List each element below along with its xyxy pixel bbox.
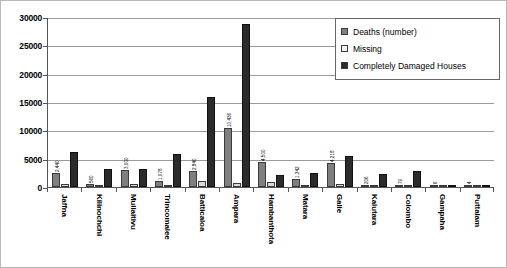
y-axis-tick-label: 0 [0,183,42,193]
bar[interactable] [448,185,456,187]
bar[interactable] [267,182,275,187]
x-axis-category-label: Trincomalee [163,194,172,240]
legend-label: Deaths (number) [353,27,417,37]
y-axis-tick-mark [43,46,47,47]
bar-value-label: 4,218 [329,151,334,163]
bar[interactable]: 4 [464,185,472,187]
bar-group: 4,500 [254,18,288,187]
x-axis-category-label: Kalutara [369,194,378,225]
bar-group: 10,436 [220,18,254,187]
x-axis-labels: JaffnaKilinochchiMullaitivuTrincomaleeBa… [47,194,494,266]
bar[interactable]: 79 [395,185,403,187]
x-axis-label-cell: Gampaha [425,194,459,266]
x-axis-category-label: Jaffna [60,194,69,217]
bar[interactable] [233,183,241,187]
x-axis-category-label: Mullaitivu [128,194,137,230]
x-axis-category-label: Hambanthota [266,194,275,244]
y-axis-tick-mark [43,160,47,161]
bar[interactable] [70,152,78,187]
bar[interactable] [276,175,284,187]
bar[interactable] [207,97,215,187]
x-axis-category-label: Kilinochchi [94,194,103,236]
bar-value-label: 1,078 [158,168,163,180]
x-axis-category-label: Ampara [232,194,241,223]
bar[interactable] [482,185,490,187]
y-axis-tick-label: 15000 [0,98,42,108]
bar[interactable]: 3,000 [121,170,129,187]
legend-item-deaths[interactable]: Deaths (number) [341,23,494,40]
y-axis-tick-mark [43,131,47,132]
bar[interactable]: 1,342 [292,179,300,187]
bar[interactable]: 4,218 [327,163,335,187]
x-axis-category-label: Colombo [404,194,413,228]
x-axis-category-label: Batticaloa [197,194,206,231]
bar[interactable]: 4,500 [258,162,266,188]
bar[interactable] [310,173,318,187]
bar-chart: 2,4405603,0001,0782,84010,4364,5001,3424… [0,0,507,268]
bar[interactable] [379,174,387,187]
x-axis-label-cell: Galle [322,194,356,266]
x-axis-category-label: Gampaha [438,194,447,230]
y-axis-tick-label: 30000 [0,13,42,23]
legend-swatch-icon [341,45,348,52]
x-axis-label-cell: Matara [288,194,322,266]
legend-item-missing[interactable]: Missing [341,40,494,57]
bar[interactable]: 6 [430,185,438,187]
y-axis-tick-label: 25000 [0,41,42,51]
bar-group: 1,078 [151,18,185,187]
bar[interactable]: 560 [86,184,94,187]
bar-value-label: 10,436 [226,113,231,127]
chart-legend: Deaths (number) Missing Completely Damag… [335,18,500,80]
x-axis-category-label: Puttalam [472,194,481,227]
x-axis-label-cell: Kalutara [357,194,391,266]
bar[interactable] [104,169,112,187]
x-axis-label-cell: Ampara [219,194,253,266]
bar-value-label: 1,342 [295,167,300,179]
bar-value-label: 6 [432,181,437,184]
bar-value-label: 206 [363,176,368,184]
bar[interactable] [164,185,172,187]
bar[interactable] [370,185,378,187]
bar[interactable] [173,154,181,187]
bar-group: 3,000 [117,18,151,187]
bar[interactable] [301,185,309,187]
y-axis-tick-mark [43,103,47,104]
bar[interactable] [404,185,412,187]
x-axis-label-cell: Kilinochchi [81,194,115,266]
bar[interactable] [345,156,353,187]
bar[interactable] [198,181,206,187]
bar[interactable] [242,24,250,187]
bar[interactable]: 2,440 [52,173,60,187]
bar-value-label: 560 [89,175,94,183]
bar[interactable] [139,169,147,187]
x-axis-category-label: Galle [335,194,344,213]
bar[interactable] [95,185,103,187]
legend-item-damaged-houses[interactable]: Completely Damaged Houses [341,57,494,74]
legend-swatch-icon [341,62,348,69]
bar-value-label: 4,500 [261,149,266,161]
bar[interactable] [336,184,344,187]
y-axis-tick-label: 5000 [0,155,42,165]
bar-value-label: 4 [466,181,471,184]
bar[interactable]: 10,436 [224,128,232,187]
bar[interactable]: 206 [361,185,369,187]
bar[interactable] [130,184,138,187]
bar[interactable]: 1,078 [155,181,163,187]
bar-group: 560 [82,18,116,187]
x-axis-label-cell: Trincomalee [150,194,184,266]
bar-value-label: 2,840 [192,158,197,170]
bar-value-label: 79 [398,179,403,184]
bar[interactable] [439,185,447,187]
bar-value-label: 3,000 [123,158,128,170]
legend-swatch-icon [341,28,348,35]
x-axis-category-label: Matara [300,194,309,219]
bar-group: 2,440 [48,18,82,187]
bar[interactable] [413,171,421,187]
bar[interactable] [473,185,481,187]
bar-group: 1,342 [288,18,322,187]
bar[interactable] [61,184,69,187]
x-axis-label-cell: Colombo [391,194,425,266]
x-axis-label-cell: Puttalam [460,194,494,266]
bar[interactable]: 2,840 [189,171,197,187]
y-axis-tick-mark [43,18,47,19]
